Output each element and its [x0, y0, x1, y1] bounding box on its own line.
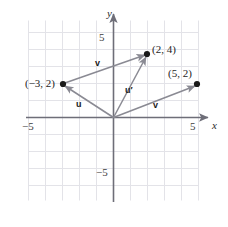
vector-v-upper-arrow — [62, 55, 145, 84]
point-label-2-4: (2, 4) — [152, 44, 176, 55]
y-tick-label-5: 5 — [99, 32, 105, 43]
point-marker-neg3-2 — [60, 81, 66, 87]
point-label-neg3-2: (−3, 2) — [25, 78, 55, 89]
x-tick-label-neg5: −5 — [22, 121, 34, 132]
vector-label-v-lower: v — [153, 101, 158, 110]
x-tick-label-5: 5 — [190, 121, 196, 132]
point-marker-5-2 — [194, 81, 200, 87]
y-tick-label-neg5: −5 — [96, 167, 108, 178]
vector-diagram-figure: 5 −5 −5 5 y x (−3, 2) (2, 4) (5, 2) u v … — [0, 0, 228, 227]
point-marker-2-4 — [144, 51, 150, 57]
vector-label-u-prime: u′ — [125, 86, 133, 95]
vector-label-u: u — [76, 100, 82, 109]
point-label-5-2: (5, 2) — [168, 68, 192, 79]
vector-label-v-upper: v — [95, 59, 100, 68]
coordinate-plane — [0, 0, 228, 227]
x-axis-label: x — [212, 120, 217, 131]
y-axis-label: y — [107, 8, 112, 19]
vector-u-arrow — [65, 86, 114, 118]
axis-lines — [26, 14, 208, 202]
